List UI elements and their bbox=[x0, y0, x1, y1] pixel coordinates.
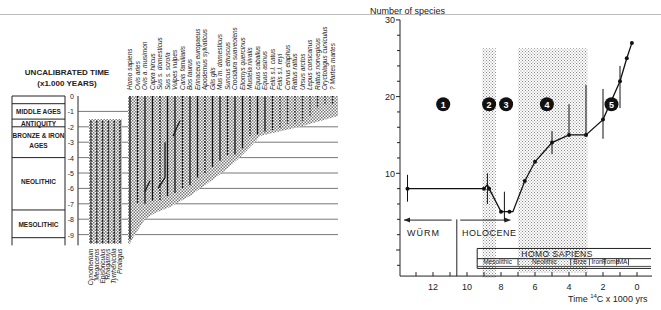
introduced-species-label: Felis s.l. catus bbox=[269, 48, 276, 90]
introduced-species-label: Mus m. domesticus bbox=[216, 33, 223, 90]
phase-number: 2 bbox=[487, 100, 492, 110]
introduced-species-label: Ovis aries bbox=[134, 60, 141, 90]
introduced-species-label: Sus s. domesticus bbox=[156, 37, 163, 90]
period-label: MIDDLE AGES bbox=[16, 108, 62, 115]
culture-label: Mesolithic bbox=[483, 258, 513, 265]
introduced-species-label: Sus s. scrofa bbox=[164, 52, 171, 90]
right-ylabel: Number of species bbox=[370, 6, 446, 16]
y-tick-label: 10 bbox=[385, 169, 395, 179]
data-point bbox=[499, 210, 503, 214]
x-tick-label: 10 bbox=[462, 282, 472, 292]
phase-number: 1 bbox=[441, 100, 446, 110]
period-label: BRONZE & IRON bbox=[13, 132, 65, 139]
phase-number: 3 bbox=[504, 100, 509, 110]
shaded-interval bbox=[518, 48, 588, 273]
introduced-species-label: Ursus arctos bbox=[299, 53, 306, 90]
shaded-interval bbox=[482, 48, 496, 278]
introduced-species-label: Ovis a. musimon bbox=[141, 41, 148, 90]
period-label: AGES bbox=[29, 142, 48, 149]
introduced-species-label: Bos taurus bbox=[186, 58, 193, 90]
x-tick-label: 0 bbox=[634, 282, 639, 292]
y-tick-label: -3 bbox=[68, 139, 74, 146]
phase-number: 4 bbox=[544, 100, 549, 110]
y-tick-label: -6 bbox=[68, 185, 74, 192]
introduced-species-label: Mustela nivalis bbox=[246, 47, 253, 90]
introduced-species-label: Rattus rattus bbox=[291, 52, 298, 90]
extinct-species-label: Prolagus bbox=[116, 248, 124, 274]
x-tick-label: 8 bbox=[498, 282, 503, 292]
data-point bbox=[533, 160, 537, 164]
data-point bbox=[625, 56, 629, 60]
y-tick-label: 30 bbox=[385, 15, 395, 25]
y-tick-label: -8 bbox=[68, 216, 74, 223]
culture-label: Neolithic bbox=[532, 258, 558, 265]
period-label: MESOLITHIC bbox=[18, 221, 58, 228]
x-tick-label: 12 bbox=[428, 282, 438, 292]
introduced-species-label: Suncus etruscus bbox=[224, 41, 231, 90]
introduced-species-label: Crocidura suaveolens bbox=[231, 26, 238, 90]
period-label: NEOLITHIC bbox=[21, 178, 56, 185]
epoch-holocene: HOLOCENE bbox=[462, 228, 517, 238]
data-point bbox=[630, 41, 634, 45]
culture-label: MA bbox=[618, 258, 628, 265]
y-tick-label: 20 bbox=[385, 92, 395, 102]
x-axis-label: Time 14C x 1000 yrs bbox=[568, 293, 648, 304]
left-chart: UNCALIBRATED TIME(x1.000 YEARS)MIDDLE AG… bbox=[0, 0, 661, 310]
x-tick-label: 6 bbox=[532, 282, 537, 292]
introduced-species-label: Canis familiaris bbox=[179, 45, 186, 90]
data-point bbox=[482, 187, 486, 191]
introduced-species-label: ? Martes martes bbox=[329, 42, 336, 90]
x-tick-label: 4 bbox=[566, 282, 571, 292]
phase-number: 5 bbox=[609, 100, 614, 110]
data-point bbox=[508, 210, 512, 214]
y-tick-label: -4 bbox=[68, 155, 74, 162]
y-tick-label: -9 bbox=[68, 232, 74, 239]
y-tick-label: -7 bbox=[68, 201, 74, 208]
y-tick-label: -1 bbox=[68, 108, 74, 115]
left-title: UNCALIBRATED TIME bbox=[25, 68, 110, 77]
culture-label: Brze bbox=[573, 258, 587, 265]
y-tick-label: 0 bbox=[70, 93, 74, 100]
left-subtitle: (x1.000 YEARS) bbox=[37, 79, 97, 88]
data-point bbox=[523, 179, 527, 183]
epoch-wurm: WÜRM bbox=[407, 228, 440, 238]
y-tick-label: -2 bbox=[68, 124, 74, 131]
x-tick-label: 2 bbox=[600, 282, 605, 292]
period-label: ANTIQUITY bbox=[21, 120, 57, 128]
y-tick-label: -5 bbox=[68, 170, 74, 177]
